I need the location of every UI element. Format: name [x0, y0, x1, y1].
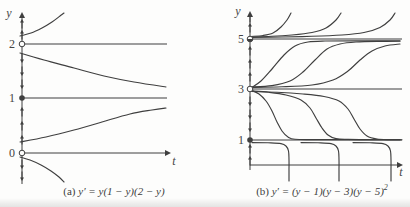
y-tick-label: 2 [9, 37, 15, 51]
solution-curve [301, 143, 339, 181]
equilibrium-point-open [247, 86, 253, 92]
y-axis-label: y [234, 4, 241, 18]
y-axis-arrowhead-icon [19, 12, 25, 18]
caption-b-equation: y′ = (y − 1)(y − 3)(y − 5) [272, 185, 384, 197]
flow-down-arrowhead-icon [20, 73, 24, 77]
solution-curve [252, 143, 289, 181]
y-axis-label: y [5, 6, 12, 20]
caption-b-label: (b) [256, 185, 272, 197]
caption-b: (b) y′ = (y − 1)(y − 3)(y − 5)2 [244, 185, 400, 197]
solution-curve [251, 13, 291, 37]
solution-curve [20, 108, 166, 142]
t-axis-arrowhead-icon [165, 150, 171, 156]
t-axis-label: t [399, 165, 403, 179]
y-tick-label: 1 [9, 91, 15, 105]
y-tick-label: 1 [238, 133, 244, 147]
caption-a-label: (a) [63, 185, 78, 197]
solution-curve [20, 53, 166, 87]
solution-curve [251, 13, 341, 37]
flow-down-arrowhead-icon [20, 86, 24, 90]
flow-up-arrowhead-icon [248, 144, 252, 148]
equilibrium-point-open [19, 150, 25, 156]
equilibrium-point-open [19, 41, 25, 47]
flow-down-arrowhead-icon [248, 116, 252, 120]
plot-canvas: 210yt531yt [0, 0, 410, 207]
flow-down-arrowhead-icon [20, 60, 24, 64]
y-tick-label: 0 [9, 146, 15, 160]
solution-curve [353, 143, 391, 181]
flow-up-arrowhead-icon [248, 59, 252, 63]
panel-b-group: 531yt [234, 4, 403, 181]
flow-up-arrowhead-icon [248, 72, 252, 76]
t-axis-label: t [172, 154, 176, 168]
panel-a-group: 210yt [5, 6, 176, 184]
equilibrium-point-filled [247, 137, 253, 143]
flow-down-arrowhead-icon [20, 166, 24, 170]
solution-curve [251, 13, 395, 38]
caption-b-exponent: 2 [384, 183, 388, 192]
solution-curve [251, 91, 400, 140]
flow-up-arrowhead-icon [20, 107, 24, 111]
flow-down-arrowhead-icon [248, 103, 252, 107]
flow-up-arrowhead-icon [248, 156, 252, 160]
equilibrium-point-filled [19, 95, 25, 101]
flow-up-arrowhead-icon [248, 46, 252, 50]
solution-curve [20, 157, 64, 182]
flow-down-arrowhead-icon [20, 178, 24, 182]
caption-a-equation: y′ = y(1 − y)(2 − y) [78, 185, 164, 197]
flow-up-arrowhead-icon [20, 19, 24, 23]
y-tick-label: 3 [238, 82, 244, 96]
flow-up-arrowhead-icon [20, 135, 24, 139]
flow-up-arrowhead-icon [20, 121, 24, 125]
y-tick-label: 5 [238, 32, 244, 46]
caption-a: (a) y′ = y(1 − y)(2 − y) [36, 185, 192, 197]
solution-curve [20, 13, 64, 36]
phase-portrait-figure: 210yt531yt (a) y′ = y(1 − y)(2 − y) (b) … [0, 0, 410, 207]
flow-down-arrowhead-icon [248, 129, 252, 133]
flow-up-arrowhead-icon [248, 23, 252, 27]
flow-up-arrowhead-icon [20, 30, 24, 34]
